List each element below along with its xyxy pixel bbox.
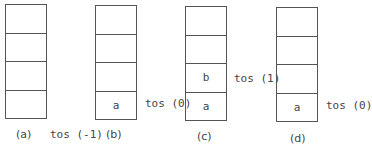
caption-b: (b) — [106, 128, 122, 141]
tos-label-a: tos (-1) — [50, 128, 103, 141]
stack-cell — [96, 35, 136, 64]
stack-cell: a — [186, 93, 226, 122]
caption-d: (d) — [290, 132, 306, 145]
stack-cell — [96, 6, 136, 35]
stack-cell — [6, 34, 46, 63]
stack-d: a — [276, 7, 318, 122]
stack-cell — [277, 8, 317, 37]
stack-cell: b — [186, 64, 226, 93]
caption-a: (a) — [16, 128, 31, 141]
stack-cell — [277, 37, 317, 66]
stack-cell — [186, 36, 226, 65]
tos-label-c: tos (1) — [234, 72, 280, 85]
stack-a — [5, 4, 47, 119]
stack-cell: a — [96, 92, 136, 121]
stack-cell — [277, 65, 317, 94]
caption-c: (c) — [197, 130, 212, 143]
stack-cell — [6, 5, 46, 34]
stack-cell — [186, 7, 226, 36]
stack-cell: a — [277, 94, 317, 123]
stack-cell — [96, 63, 136, 92]
stack-c: b a — [185, 6, 227, 121]
stack-b: a — [95, 5, 137, 120]
stack-cell — [6, 62, 46, 91]
stack-cell — [6, 91, 46, 120]
tos-label-d: tos (0) — [326, 99, 372, 112]
